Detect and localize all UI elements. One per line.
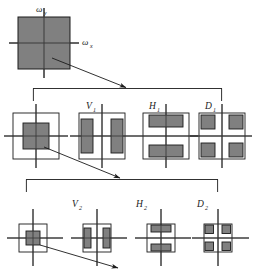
level2-block-approx bbox=[7, 209, 63, 266]
d1-label: D 1 bbox=[204, 101, 216, 113]
h2-label-glyph: H bbox=[135, 199, 144, 209]
v2-label-subscript: 2 bbox=[79, 205, 82, 211]
h1-label-glyph: H bbox=[148, 101, 157, 111]
h1-label-subscript: 1 bbox=[157, 107, 160, 113]
omega-x-glyph: ω bbox=[82, 37, 88, 47]
d1-label-subscript: 1 bbox=[213, 107, 216, 113]
v2-label: V 2 bbox=[72, 199, 82, 211]
level2-block-diagonal bbox=[192, 209, 249, 266]
d2-band-bottom-left bbox=[205, 242, 214, 251]
level1-block-horizontal bbox=[134, 104, 198, 168]
level2-block-vertical bbox=[71, 209, 127, 266]
figure-canvas: ω y ω x V 1 bbox=[0, 0, 253, 272]
level1-block-approx bbox=[4, 104, 68, 168]
d1-label-glyph: D bbox=[204, 101, 212, 111]
d1-band-top-left bbox=[201, 115, 215, 129]
level2-block-horizontal bbox=[135, 209, 191, 266]
omega-y-subscript: y bbox=[43, 10, 47, 16]
d2-label: D 2 bbox=[196, 199, 208, 211]
d1-band-top-right bbox=[229, 115, 243, 129]
omega-x-subscript: x bbox=[89, 43, 93, 49]
level0-root-block bbox=[9, 8, 79, 78]
v1-label: V 1 bbox=[86, 101, 96, 113]
d2-label-glyph: D bbox=[196, 199, 204, 209]
h1-label: H 1 bbox=[148, 101, 160, 113]
omega-y-label: ω y bbox=[36, 4, 47, 16]
d2-band-top-left bbox=[205, 225, 214, 234]
d1-band-bottom-left bbox=[201, 143, 215, 157]
wavelet-decomposition-figure: ω y ω x V 1 bbox=[0, 0, 253, 272]
h2-label: H 2 bbox=[135, 199, 147, 211]
level1-block-diagonal bbox=[190, 104, 252, 168]
d2-band-top-right bbox=[222, 225, 231, 234]
omega-x-label: ω x bbox=[82, 37, 93, 49]
omega-y-glyph: ω bbox=[36, 4, 42, 14]
bracket-level1 bbox=[33, 89, 222, 102]
bracket-level2 bbox=[26, 180, 218, 193]
d2-label-subscript: 2 bbox=[205, 205, 208, 211]
d1-band-bottom-right bbox=[229, 143, 243, 157]
v1-label-subscript: 1 bbox=[93, 107, 96, 113]
arrow-level0-to-level1 bbox=[52, 58, 126, 88]
d2-band-bottom-right bbox=[222, 242, 231, 251]
h2-label-subscript: 2 bbox=[144, 205, 147, 211]
v1-label-glyph: V bbox=[86, 101, 93, 111]
level1-block-vertical bbox=[70, 104, 134, 168]
v2-label-glyph: V bbox=[72, 199, 79, 209]
